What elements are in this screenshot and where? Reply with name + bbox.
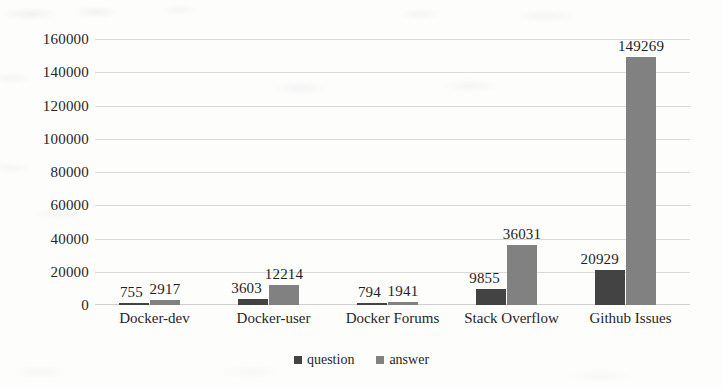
chart-page: 1600001400001200001000008000060000400002…: [0, 0, 723, 387]
legend-swatch-icon: [294, 356, 302, 364]
y-axis-tick-140000: 140000: [9, 65, 89, 80]
bar-question[interactable]: [238, 299, 268, 305]
y-axis-tick-40000: 40000: [9, 232, 89, 247]
bar-value-label: 3603: [214, 281, 262, 296]
y-axis-tick-20000: 20000: [9, 265, 89, 280]
legend-item-question[interactable]: question: [294, 352, 354, 368]
plot-area: 7552917360312214794194198553603120929149…: [95, 39, 690, 305]
legend-label: answer: [389, 352, 429, 368]
bar-question[interactable]: [595, 270, 625, 305]
bar-question[interactable]: [476, 289, 506, 305]
x-axis-label-stack-overflow: Stack Overflow: [452, 310, 571, 327]
legend-swatch-icon: [376, 356, 384, 364]
bar-value-label: 1941: [373, 284, 433, 299]
x-axis-label-docker-forums: Docker Forums: [333, 310, 452, 327]
bar-question[interactable]: [119, 303, 149, 305]
bar-group: 20929149269: [571, 39, 690, 305]
chart-legend: questionanswer: [0, 352, 723, 368]
bar-value-label: 149269: [611, 39, 671, 54]
y-axis-tick-0: 0: [9, 298, 89, 313]
bar-group: 985536031: [452, 39, 571, 305]
bar-answer[interactable]: [150, 300, 180, 305]
bar-value-label: 20929: [571, 252, 619, 267]
y-axis-tick-80000: 80000: [9, 165, 89, 180]
y-axis-tick-120000: 120000: [9, 99, 89, 114]
bar-question[interactable]: [357, 303, 387, 305]
x-axis-label-docker-user: Docker-user: [214, 310, 333, 327]
bar-group: 7552917: [95, 39, 214, 305]
bar-group: 360312214: [214, 39, 333, 305]
legend-label: question: [307, 352, 354, 368]
bar-value-label: 36031: [492, 227, 552, 242]
bar-answer[interactable]: [388, 302, 418, 305]
y-axis-tick-100000: 100000: [9, 132, 89, 147]
x-axis-label-github-issues: Github Issues: [571, 310, 690, 327]
bar-answer[interactable]: [269, 285, 299, 305]
bar-group: 7941941: [333, 39, 452, 305]
bar-value-label: 9855: [452, 271, 500, 286]
bar-answer[interactable]: [507, 245, 537, 305]
bar-value-label: 12214: [254, 267, 314, 282]
bar-value-label: 2917: [135, 282, 195, 297]
x-axis-label-docker-dev: Docker-dev: [95, 310, 214, 327]
legend-item-answer[interactable]: answer: [376, 352, 429, 368]
bar-answer[interactable]: [626, 57, 656, 305]
y-axis-tick-60000: 60000: [9, 198, 89, 213]
y-axis-tick-160000: 160000: [9, 32, 89, 47]
